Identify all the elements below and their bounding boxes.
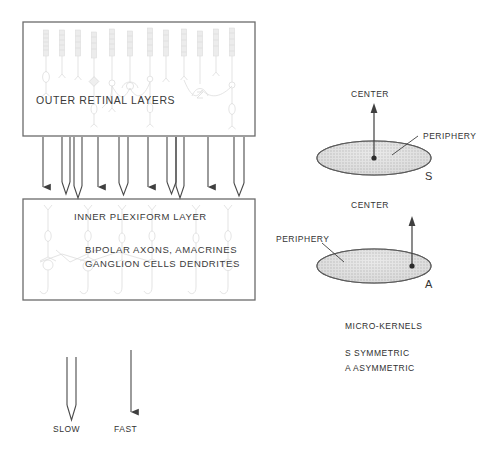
kernel-a-graphic [317, 216, 431, 283]
slow-label: SLOW [53, 424, 80, 434]
slow-legend-arrow [67, 357, 76, 420]
arrow-slow [234, 137, 244, 196]
inner-plexiform-sublabel-2: GANGLION CELLS DENDRITES [85, 258, 240, 269]
outer-retina-cell-drawings [42, 28, 235, 129]
kernel-s-letter: S [425, 170, 433, 182]
kernel-s-center-dot [371, 155, 376, 160]
fast-label: FAST [114, 424, 137, 434]
kernel-a-periphery-label: PERIPHERY [276, 234, 329, 244]
kernel-a-letter: A [425, 278, 433, 290]
kernel-a-center-arrowhead [409, 216, 416, 226]
arrow-slow [176, 137, 184, 198]
outer-retinal-layers-label: OUTER RETINAL LAYERS [36, 94, 175, 106]
kernel-a-center-label: CENTER [351, 200, 389, 210]
micro-kernels-line-2: A ASYMMETRIC [345, 363, 415, 373]
kernel-a-center-dot [409, 263, 414, 268]
kernel-s-center-arrowhead [371, 103, 378, 113]
arrow-slow [167, 137, 176, 194]
outer-retinal-layers-box [23, 22, 255, 136]
inner-plexiform-layer-label: INNER PLEXIFORM LAYER [74, 211, 207, 222]
arrow-slow [62, 137, 70, 194]
kernel-s-graphic [317, 103, 431, 175]
arrow-slow [74, 137, 82, 198]
kernel-s-periphery-label: PERIPHERY [423, 131, 476, 141]
arrow-slow [119, 137, 128, 195]
kernel-s-center-label: CENTER [351, 89, 389, 99]
interlayer-arrows [43, 137, 244, 198]
micro-kernels-line-1: S SYMMETRIC [345, 348, 410, 358]
figure-vector-layer [0, 0, 488, 462]
micro-kernels-heading: MICRO-KERNELS [345, 321, 422, 331]
figure-canvas: OUTER RETINAL LAYERS INNER PLEXIFORM LAY… [0, 0, 488, 462]
inner-plexiform-sublabel-1: BIPOLAR AXONS, AMACRINES [85, 244, 237, 255]
